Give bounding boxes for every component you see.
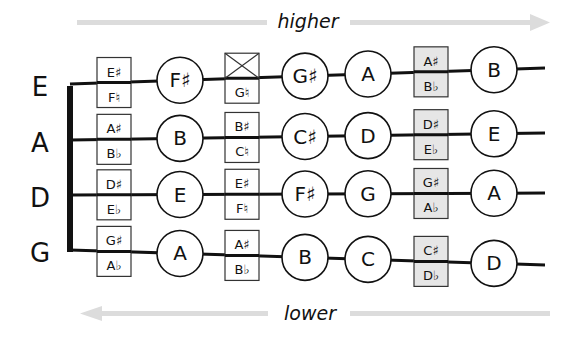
string-label: E [32,72,48,102]
note-circle: B [157,115,203,161]
note-circle: A [471,170,517,216]
enharmonic-box: G♯A♭ [97,226,131,276]
sharp-name: B♯ [234,119,249,134]
enharmonic-box: D♯E♭ [97,170,131,220]
flat-or-natural-name: C♮ [235,144,249,159]
enharmonic-box: E♯F♮ [225,169,259,219]
note-circle: C♯ [282,114,328,160]
sharp-name: D♯ [423,117,439,132]
string-e: EE♯F♮F♯G♮G♯AA♯B♭B [32,47,545,108]
enharmonic-box: G♮ [225,53,259,103]
sharp-name: E♯ [235,176,250,191]
flat-or-natural-name: F♮ [236,201,248,216]
note-label: B [487,58,501,82]
note-label: G♯ [292,64,317,88]
sharp-name: C♯ [423,243,438,258]
string-label: D [30,183,50,213]
enharmonic-box-shaded: G♯A♭ [414,168,448,218]
sharp-name: A♯ [106,121,121,136]
note-label: B [298,245,312,269]
sharp-name: E♯ [107,65,122,80]
fretboard-diagram: higher lower EE♯F♮F♯G♮G♯AA♯B♭BAA♯B♭BB♯C♮… [0,0,581,341]
sharp-name: G♯ [106,233,122,248]
enharmonic-box-shaded: D♯E♭ [414,110,448,160]
note-label: G [360,182,376,206]
flat-or-natural-name: B♭ [234,262,249,277]
higher-arrow: higher [77,10,550,32]
sharp-name: A♯ [234,237,249,252]
higher-arrow-shaft-right [350,20,535,25]
note-circle: C [345,236,391,282]
lower-arrow-shaft-left [100,311,268,316]
flat-or-natural-name: A♭ [423,200,438,215]
note-circle: E [471,111,517,157]
flat-or-natural-name: D♭ [423,268,439,283]
note-label: D [486,251,501,275]
flat-or-natural-name: F♮ [108,90,120,105]
note-label: E [174,183,187,207]
sharp-name: A♯ [423,54,438,69]
string-a: AA♯B♭BB♯C♮C♯DD♯E♭E [31,110,545,165]
note-label: E [488,122,501,146]
note-circle: D [345,113,391,159]
note-circle: F♯ [282,171,328,217]
arrow-left-icon [80,306,102,321]
note-circle: B [282,234,328,280]
enharmonic-box: E♯F♮ [97,58,131,108]
note-label: A [487,181,501,205]
flat-or-natural-name: B♭ [106,146,121,161]
note-label: A [361,62,375,86]
flat-or-natural-name: E♭ [424,142,438,157]
note-circle: F♯ [157,57,203,103]
note-circle: E [157,172,203,218]
note-circle: G♯ [282,53,328,99]
sharp-name: D♯ [106,177,122,192]
enharmonic-box: A♯B♭ [225,230,259,280]
note-label: A [173,241,187,265]
note-circle: A [345,51,391,97]
enharmonic-box: B♯C♮ [225,112,259,162]
note-circle: A [157,230,203,276]
arrow-right-icon [530,14,550,31]
higher-label: higher [278,10,340,32]
string-d: DD♯E♭EE♯F♮F♯GG♯A♭A [30,168,545,219]
nut [67,86,73,252]
note-circle: G [345,171,391,217]
string-g: GG♯A♭AA♯B♭BCC♯D♭D [30,226,545,286]
lower-label: lower [284,302,337,324]
flat-or-natural-name: G♮ [235,85,250,100]
note-circle: D [471,240,517,286]
lower-arrow-shaft-right [350,311,550,316]
enharmonic-box-shaded: C♯D♭ [414,236,448,286]
note-label: D [360,124,375,148]
flat-or-natural-name: A♭ [106,258,121,273]
enharmonic-box-shaded: A♯B♭ [414,47,448,97]
string-label: A [31,128,49,158]
flat-or-natural-name: E♭ [107,202,121,217]
higher-arrow-shaft-left [77,20,267,25]
flat-or-natural-name: B♭ [423,79,438,94]
string-label: G [30,238,50,268]
sharp-name: G♯ [423,175,439,190]
lower-arrow: lower [80,302,550,324]
note-label: C♯ [293,125,317,149]
note-label: B [173,126,187,150]
note-label: F♯ [294,182,315,206]
note-label: F♯ [169,68,190,92]
note-circle: B [471,47,517,93]
note-label: C [361,247,375,271]
enharmonic-box: A♯B♭ [97,114,131,164]
